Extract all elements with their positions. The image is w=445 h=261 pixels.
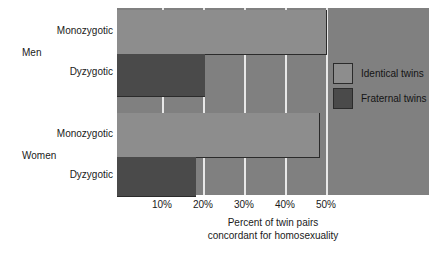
x-axis-title-line2: concordant for homosexuality [117, 229, 429, 242]
bar-women-monozygotic-cap [319, 113, 320, 158]
bar-women-dyzygotic [117, 157, 196, 197]
bar-men-dyzygotic-edge [117, 96, 205, 97]
legend-label-identical: Identical twins [361, 68, 424, 79]
legend-label-fraternal: Fraternal twins [361, 93, 427, 104]
x-axis-title: Percent of twin pairs concordant for hom… [117, 216, 429, 242]
legend-swatch-identical-icon [333, 63, 353, 84]
label-men-dyzygotic: Dyzygotic [37, 66, 113, 77]
bar-men-monozygotic-cap [326, 10, 327, 55]
label-group-women: Women [22, 150, 56, 161]
twin-concordance-chart: Identical twins Fraternal twins Monozygo… [0, 0, 445, 261]
legend-swatch-fraternal-icon [333, 88, 353, 109]
x-axis-title-line1: Percent of twin pairs [117, 216, 429, 229]
label-men-monozygotic: Monozygotic [37, 25, 113, 36]
xtick-20: 20% [183, 199, 223, 210]
bar-women-monozygotic [117, 113, 320, 157]
label-group-men: Men [22, 47, 41, 58]
xtick-40: 40% [265, 199, 305, 210]
bar-men-dyzygotic [117, 54, 205, 96]
plot-area: Identical twins Fraternal twins [117, 8, 429, 195]
label-women-dyzygotic: Dyzygotic [37, 169, 113, 180]
xtick-10: 10% [142, 199, 182, 210]
xtick-30: 30% [224, 199, 264, 210]
label-women-monozygotic: Monozygotic [37, 128, 113, 139]
bar-men-monozygotic [117, 10, 327, 54]
bar-women-dyzygotic-edge [117, 196, 196, 197]
xtick-50: 50% [306, 199, 346, 210]
